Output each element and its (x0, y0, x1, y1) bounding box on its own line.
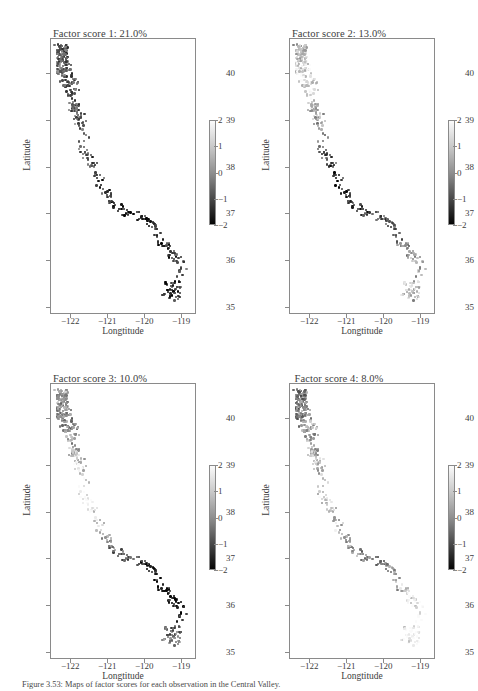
y-tick-label: 36 (195, 600, 239, 610)
data-point (97, 525, 99, 527)
y-tick-label: 39 (434, 460, 478, 470)
y-tick-mark (46, 418, 50, 419)
x-tick-mark (181, 659, 182, 663)
data-point (424, 268, 426, 270)
data-point (314, 103, 316, 105)
data-point (317, 103, 319, 105)
data-point (377, 211, 379, 213)
data-point (148, 225, 150, 227)
data-point (70, 64, 72, 66)
y-tick-label: 40 (195, 413, 239, 423)
data-point (70, 420, 72, 422)
data-point (319, 112, 321, 114)
data-point (415, 620, 417, 622)
data-point (79, 145, 81, 147)
y-axis-label: Latitude (261, 120, 271, 190)
data-point (330, 501, 332, 503)
data-point (309, 439, 311, 441)
y-tick-label: 35 (434, 302, 478, 312)
data-point (396, 589, 398, 591)
data-point (407, 256, 409, 258)
data-point (162, 583, 164, 585)
colorbar-tick-mark (214, 173, 218, 174)
data-point (418, 292, 420, 294)
data-point (152, 567, 154, 569)
data-point (298, 70, 300, 72)
y-tick-mark (46, 512, 50, 513)
panel-factor-3: Factor score 3: 10.0% Latitude Longtitud… (0, 345, 239, 690)
data-point (334, 529, 336, 531)
data-point (73, 437, 75, 439)
data-point (117, 555, 119, 557)
data-point (340, 537, 342, 539)
data-point (338, 174, 340, 176)
data-point (169, 295, 171, 297)
data-point (302, 76, 304, 78)
data-point (341, 188, 343, 190)
data-point (83, 458, 85, 460)
colorbar-tick-mark (453, 518, 457, 519)
data-point (75, 103, 77, 105)
data-point (326, 158, 328, 160)
data-point (159, 232, 161, 234)
y-tick-label: 39 (195, 460, 239, 470)
data-point (70, 75, 72, 77)
data-point (85, 499, 87, 501)
data-point (321, 157, 323, 159)
data-point (318, 145, 320, 147)
data-point (76, 427, 78, 429)
data-point (176, 275, 178, 277)
y-tick-mark (46, 260, 50, 261)
data-point (412, 597, 414, 599)
data-point (96, 507, 98, 509)
data-point (85, 465, 87, 467)
data-point (88, 481, 90, 483)
y-axis-label: Latitude (261, 465, 271, 535)
data-point (313, 88, 315, 90)
data-point (396, 585, 398, 587)
data-point (65, 420, 67, 422)
x-axis-label: Longtitude (289, 326, 435, 336)
x-tick-mark (309, 314, 310, 318)
colorbar-tick-mark (453, 225, 457, 226)
data-point (74, 468, 76, 470)
data-point (159, 577, 161, 579)
data-point (151, 571, 153, 573)
data-point (401, 238, 403, 240)
data-point (414, 296, 416, 298)
data-point (88, 136, 90, 138)
colorbar-tick-mark (214, 199, 218, 200)
data-point (341, 533, 343, 535)
data-point (83, 485, 85, 487)
data-point (310, 442, 312, 444)
data-point (362, 559, 364, 561)
y-axis-label: Latitude (22, 120, 32, 190)
data-point (65, 67, 67, 69)
data-point (361, 205, 363, 207)
data-point (317, 463, 319, 465)
data-point (112, 205, 114, 207)
data-point (175, 296, 177, 298)
x-tick-mark (383, 659, 384, 663)
data-point (349, 195, 351, 197)
data-point (123, 214, 125, 216)
data-point (86, 494, 88, 496)
data-point (295, 398, 297, 400)
y-tick-mark (46, 605, 50, 606)
y-tick-label: 35 (195, 647, 239, 657)
data-point (408, 595, 410, 597)
data-point (59, 70, 61, 72)
plot-area (50, 383, 196, 659)
data-point (148, 570, 150, 572)
data-point (81, 473, 83, 475)
data-point (393, 228, 395, 230)
data-point (69, 68, 71, 70)
data-point (104, 536, 106, 538)
data-point (91, 156, 93, 158)
data-point (58, 45, 60, 47)
data-point (153, 579, 155, 581)
data-point (390, 571, 392, 573)
y-tick-label: 35 (195, 302, 239, 312)
data-point (405, 634, 407, 636)
data-point (153, 234, 155, 236)
